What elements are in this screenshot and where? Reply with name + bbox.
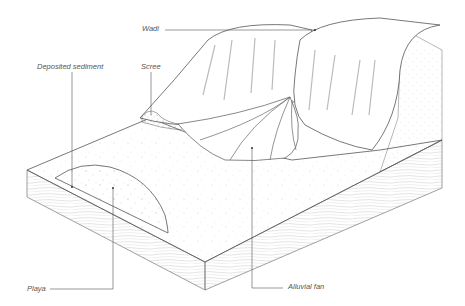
label-wadi: Wadi — [142, 24, 159, 33]
label-deposited-sediment: Deposited sediment — [37, 62, 103, 71]
label-playa: Playa — [27, 284, 46, 293]
label-alluvial-fan: Alluvial fan — [288, 282, 324, 291]
block-diagram — [0, 0, 465, 306]
label-scree: Scree — [141, 62, 161, 71]
